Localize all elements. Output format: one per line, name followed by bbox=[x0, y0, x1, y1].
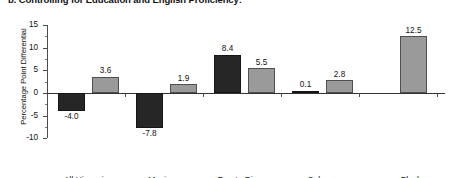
y-axis-line bbox=[47, 25, 48, 138]
x-category-label-blacks: Blacks bbox=[401, 175, 426, 178]
x-tick bbox=[359, 93, 360, 97]
bar-value-mexicans-light: 1.9 bbox=[178, 74, 189, 83]
bar-value-blacks-light: 12.5 bbox=[406, 26, 422, 35]
x-tick bbox=[281, 93, 282, 97]
bar-value-cubans-dark: 0.1 bbox=[300, 80, 311, 89]
bar-value-all-hispanics-dark: -4.0 bbox=[64, 112, 78, 121]
y-minor-tick bbox=[45, 82, 47, 83]
y-minor-tick bbox=[45, 59, 47, 60]
bar-puerto-ricans-dark bbox=[214, 55, 241, 93]
y-tick-10: 10 bbox=[43, 48, 47, 49]
x-tick bbox=[203, 93, 204, 97]
y-tick-label-15: 15 bbox=[29, 21, 38, 29]
bar-mexicans-light bbox=[170, 84, 197, 93]
bar-cubans-dark bbox=[292, 91, 319, 94]
bar-all-hispanics-light bbox=[92, 77, 119, 93]
x-tick bbox=[125, 93, 126, 97]
bar-value-puerto-ricans-light: 5.5 bbox=[256, 58, 267, 67]
bar-value-mexicans-dark: -7.8 bbox=[142, 129, 156, 138]
y-tick-minus5: -5 bbox=[43, 116, 47, 117]
bar-blacks-light bbox=[400, 36, 427, 93]
zero-axis-line bbox=[47, 93, 445, 94]
y-tick-minus10: -10 bbox=[43, 138, 47, 139]
bar-puerto-ricans-light bbox=[248, 68, 275, 93]
y-tick-5: 5 bbox=[43, 70, 47, 71]
y-axis-label: Percentage Point Differential bbox=[19, 7, 28, 147]
x-category-label-all-hispanics: All Hispanics bbox=[64, 175, 112, 178]
plot-area: 15 10 5 0 -5 -10 -4.0 bbox=[47, 25, 445, 138]
x-category-label-puerto-ricans: Puerto Ricans bbox=[218, 175, 271, 178]
y-tick-15: 15 bbox=[43, 25, 47, 26]
bar-value-puerto-ricans-dark: 8.4 bbox=[222, 44, 233, 53]
x-tick bbox=[437, 93, 438, 97]
y-tick-label-10: 10 bbox=[29, 44, 38, 52]
x-category-label-mexicans: Mexicans bbox=[148, 175, 183, 178]
y-minor-tick bbox=[45, 104, 47, 105]
y-tick-label-minus10: -10 bbox=[26, 134, 38, 142]
x-category-label-cubans: Cubans bbox=[308, 175, 337, 178]
y-tick-label-minus5: -5 bbox=[31, 112, 38, 120]
y-tick-label-5: 5 bbox=[33, 66, 38, 74]
y-minor-tick bbox=[45, 127, 47, 128]
y-minor-tick bbox=[45, 36, 47, 37]
y-tick-label-0: 0 bbox=[33, 89, 38, 97]
chart-figure: b. Controlling for Education and English… bbox=[0, 0, 452, 178]
chart-title: b. Controlling for Education and English… bbox=[8, 0, 448, 6]
bar-mexicans-dark bbox=[136, 93, 163, 128]
bar-value-cubans-light: 2.8 bbox=[334, 70, 345, 79]
bar-value-all-hispanics-light: 3.6 bbox=[100, 66, 111, 75]
bar-all-hispanics-dark bbox=[58, 93, 85, 111]
bar-cubans-light bbox=[326, 80, 353, 93]
